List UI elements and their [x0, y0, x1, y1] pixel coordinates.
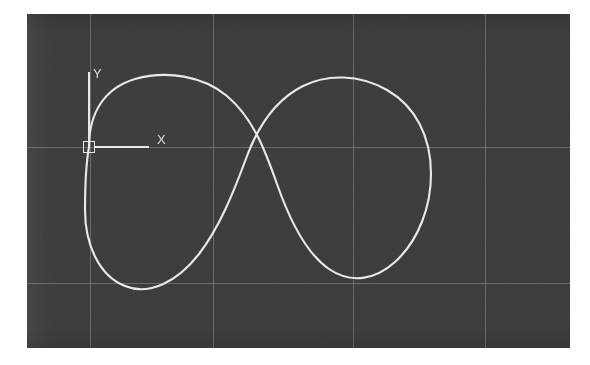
drawing-canvas[interactable]: Y X: [27, 14, 570, 348]
noise-texture: [27, 14, 570, 348]
model-space-viewport[interactable]: Y X: [27, 14, 570, 348]
application-root: Y X: [0, 0, 590, 365]
